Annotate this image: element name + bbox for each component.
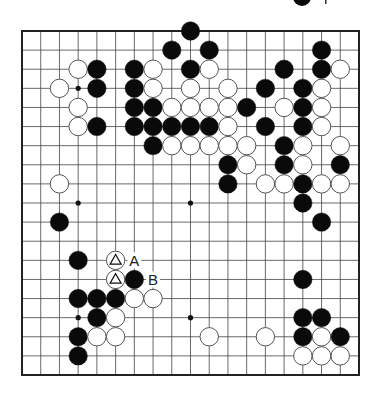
black-stone	[294, 98, 312, 116]
black-stone	[256, 117, 274, 135]
white-stone	[256, 175, 274, 193]
black-stone	[237, 98, 255, 116]
black-stone	[294, 175, 312, 193]
white-stone	[144, 289, 162, 307]
black-stone	[294, 79, 312, 97]
black-stone	[312, 308, 330, 326]
cut-off-text-fragment	[325, 0, 327, 4]
white-stone	[144, 79, 162, 97]
white-stone	[331, 347, 349, 365]
white-stone	[256, 328, 274, 346]
white-stone	[312, 347, 330, 365]
black-stone	[294, 308, 312, 326]
white-stone	[237, 136, 255, 154]
black-stone	[275, 136, 293, 154]
black-stone	[88, 308, 106, 326]
black-stone	[181, 117, 199, 135]
white-stone	[200, 136, 218, 154]
white-stone	[181, 79, 199, 97]
white-stone	[144, 60, 162, 78]
black-stone	[69, 347, 87, 365]
black-stone	[331, 328, 349, 346]
black-stone	[312, 41, 330, 59]
white-stone	[200, 60, 218, 78]
black-stone	[181, 60, 199, 78]
black-stone	[69, 328, 87, 346]
white-stone	[219, 79, 237, 97]
point-label: B	[148, 271, 158, 288]
black-stone	[275, 60, 293, 78]
star-point	[76, 86, 81, 91]
white-stone	[312, 328, 330, 346]
black-stone	[294, 194, 312, 212]
star-point	[188, 200, 193, 205]
black-stone	[144, 117, 162, 135]
white-stone	[125, 289, 143, 307]
black-stone	[88, 289, 106, 307]
white-stone	[50, 79, 68, 97]
black-stone	[88, 79, 106, 97]
black-stone	[256, 79, 274, 97]
point-label: A	[129, 252, 139, 269]
header-fragment	[293, 0, 327, 6]
black-stone	[312, 213, 330, 231]
white-stone	[163, 136, 181, 154]
black-stone	[88, 60, 106, 78]
black-stone	[144, 136, 162, 154]
star-point	[76, 315, 81, 320]
star-point	[76, 200, 81, 205]
black-stone	[275, 156, 293, 174]
black-stone	[125, 60, 143, 78]
partial-black-stone	[293, 0, 311, 6]
white-stone	[163, 98, 181, 116]
black-stone	[219, 156, 237, 174]
white-stone	[294, 156, 312, 174]
white-stone	[219, 117, 237, 135]
white-stone	[275, 175, 293, 193]
black-stone	[125, 79, 143, 97]
white-stone	[275, 98, 293, 116]
black-stone	[312, 60, 330, 78]
black-stone	[181, 22, 199, 40]
white-stone	[312, 98, 330, 116]
stones-layer	[50, 22, 349, 365]
black-stone	[88, 117, 106, 135]
white-stone	[88, 328, 106, 346]
white-stone	[106, 328, 124, 346]
black-stone	[200, 117, 218, 135]
black-stone	[106, 289, 124, 307]
white-stone	[294, 347, 312, 365]
black-stone	[331, 156, 349, 174]
white-stone	[294, 136, 312, 154]
white-stone	[181, 136, 199, 154]
white-stone	[69, 117, 87, 135]
black-stone	[125, 270, 143, 288]
white-stone	[237, 156, 255, 174]
white-stone	[331, 175, 349, 193]
black-stone	[200, 41, 218, 59]
black-stone	[294, 328, 312, 346]
go-board-diagram: AB	[0, 0, 380, 400]
white-stone	[50, 175, 68, 193]
white-stone	[200, 328, 218, 346]
white-stone	[69, 60, 87, 78]
white-stone	[331, 136, 349, 154]
black-stone	[219, 175, 237, 193]
white-stone	[219, 98, 237, 116]
black-stone	[69, 251, 87, 269]
black-stone	[294, 117, 312, 135]
black-stone	[163, 117, 181, 135]
white-stone	[331, 60, 349, 78]
black-stone	[50, 213, 68, 231]
star-point	[188, 315, 193, 320]
white-stone	[312, 79, 330, 97]
black-stone	[144, 98, 162, 116]
white-stone	[219, 136, 237, 154]
white-stone	[200, 98, 218, 116]
black-stone	[69, 289, 87, 307]
black-stone	[125, 98, 143, 116]
white-stone	[106, 308, 124, 326]
black-stone	[125, 117, 143, 135]
white-stone	[69, 98, 87, 116]
white-stone	[312, 117, 330, 135]
